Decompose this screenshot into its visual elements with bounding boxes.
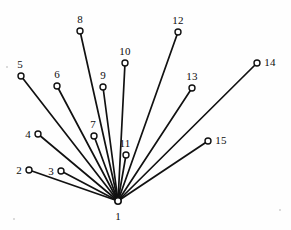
node-label: 13 — [186, 71, 197, 82]
node-label: 2 — [16, 165, 22, 176]
node-label: 6 — [54, 69, 60, 80]
graph-node[interactable] — [58, 168, 64, 174]
node-label: 15 — [215, 135, 226, 146]
graph-node[interactable] — [254, 60, 260, 66]
graph-node[interactable] — [77, 28, 83, 34]
graph-edge — [118, 63, 257, 201]
star-graph-figure: 123456789101112131415 — [0, 0, 291, 230]
graph-node[interactable] — [205, 138, 211, 144]
graph-node[interactable] — [189, 85, 195, 91]
graph-node[interactable] — [100, 84, 106, 90]
scan-speck — [279, 209, 281, 211]
graph-node[interactable] — [91, 133, 97, 139]
scan-speck — [13, 218, 15, 220]
node-label: 14 — [264, 57, 275, 68]
node-label: 1 — [115, 211, 121, 222]
graph-canvas — [0, 0, 291, 230]
graph-edge — [118, 141, 208, 201]
graph-node[interactable] — [122, 60, 128, 66]
graph-node[interactable] — [26, 167, 32, 173]
node-label: 7 — [90, 119, 96, 130]
node-label: 10 — [119, 46, 130, 57]
graph-node[interactable] — [175, 29, 181, 35]
scan-speck — [6, 66, 8, 68]
node-label: 11 — [120, 138, 131, 149]
graph-node[interactable] — [123, 152, 129, 158]
node-label: 5 — [17, 59, 23, 70]
node-label: 9 — [100, 70, 106, 81]
node-label: 4 — [25, 129, 31, 140]
node-label: 3 — [48, 166, 54, 177]
edges-group — [21, 31, 257, 201]
nodes-group — [18, 28, 260, 204]
graph-edge — [118, 32, 178, 201]
graph-node[interactable] — [18, 73, 24, 79]
graph-node-hub[interactable] — [115, 198, 121, 204]
graph-node[interactable] — [35, 131, 41, 137]
node-label: 8 — [77, 14, 83, 25]
node-label: 12 — [172, 15, 183, 26]
graph-node[interactable] — [54, 83, 60, 89]
